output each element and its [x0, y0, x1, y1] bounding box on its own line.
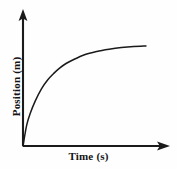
axes-group: [19, 9, 170, 151]
graph-canvas: [0, 0, 177, 169]
position-time-graph-figure: Position (m) Time (s): [0, 0, 177, 169]
x-axis-label: Time (s): [0, 151, 177, 162]
y-axis-label: Position (m): [11, 37, 22, 137]
position-time-curve: [23, 46, 146, 146]
